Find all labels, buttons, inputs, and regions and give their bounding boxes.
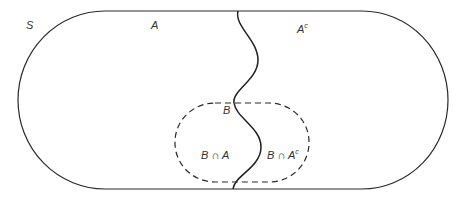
label-a-complement: Ac [296,22,308,35]
label-a-complement-sup: c [304,22,308,29]
sample-space-boundary [18,11,448,189]
label-b-and-a: B ∩ A [201,149,229,161]
label-a: A [150,19,158,31]
label-a-complement-base: A [296,23,304,35]
label-s: S [26,19,34,31]
a-complement-divider [233,11,261,189]
label-b-and-a-complement-sup: c [295,148,299,155]
label-b-and-a-complement: B ∩ Ac [267,148,299,161]
venn-diagram: S A Ac B B ∩ A B ∩ Ac [0,0,460,200]
label-b-and-a-complement-base: B ∩ A [267,149,295,161]
event-b-boundary [175,103,309,182]
label-b: B [223,104,230,116]
